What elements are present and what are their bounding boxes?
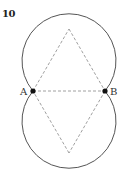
segment-bottom-a: [33, 91, 69, 153]
segment-a-top: [33, 29, 69, 91]
label-b: B: [110, 86, 117, 97]
segment-top-b: [69, 29, 105, 91]
point-b: [102, 88, 107, 93]
dashed-rhombus: [33, 29, 105, 153]
point-a: [30, 88, 35, 93]
geometry-diagram: A B: [0, 0, 124, 174]
segment-b-bottom: [69, 91, 105, 153]
label-a: A: [19, 86, 28, 97]
upper-arc: [22, 14, 116, 91]
lower-arc: [22, 91, 116, 168]
